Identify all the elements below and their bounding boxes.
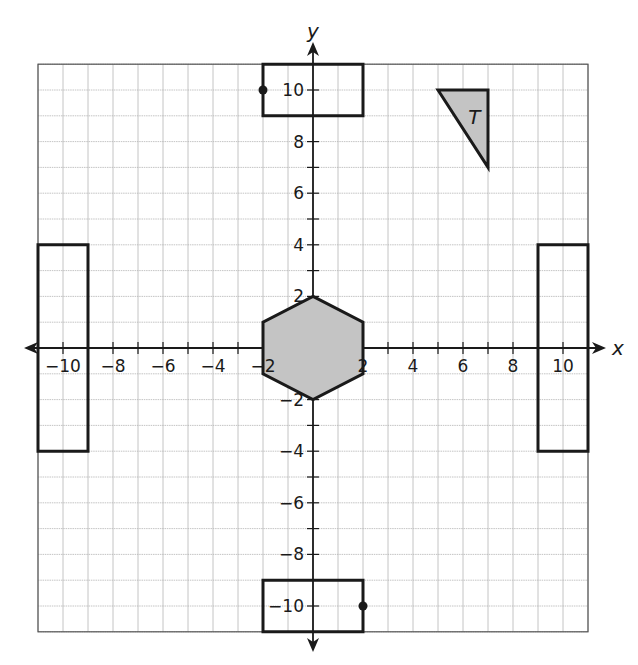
y-tick-label: 4 [293,235,304,255]
x-tick-label: 6 [458,356,469,376]
x-tick-label: −4 [200,356,225,376]
x-tick-label: −6 [150,356,175,376]
y-tick-label: −8 [279,544,304,564]
x-tick-label: 10 [552,356,574,376]
x-tick-label: −2 [250,356,275,376]
coordinate-plane: T −10−8−6−4−2246810108642−2−4−6−8−10 x y [0,0,638,665]
y-axis-label: y [306,19,320,43]
x-tick-label: 8 [508,356,519,376]
y-tick-label: 2 [293,286,304,306]
x-tick-label: 4 [408,356,419,376]
y-tick-label: 6 [293,183,304,203]
rectangle-top-marked-point [259,86,268,95]
y-tick-label: −2 [279,390,304,410]
y-tick-label: 8 [293,132,304,152]
hexagon [263,296,363,399]
triangle-T-label: T [468,105,482,129]
x-tick-label: 2 [358,356,369,376]
y-tick-label: −4 [279,441,304,461]
x-tick-label: −8 [100,356,125,376]
y-tick-label: −6 [279,493,304,513]
y-tick-label: 10 [282,80,304,100]
x-axis-label: x [611,336,624,360]
y-tick-label: −10 [268,596,304,616]
x-tick-label: −10 [45,356,81,376]
rectangle-bottom-marked-point [359,602,368,611]
